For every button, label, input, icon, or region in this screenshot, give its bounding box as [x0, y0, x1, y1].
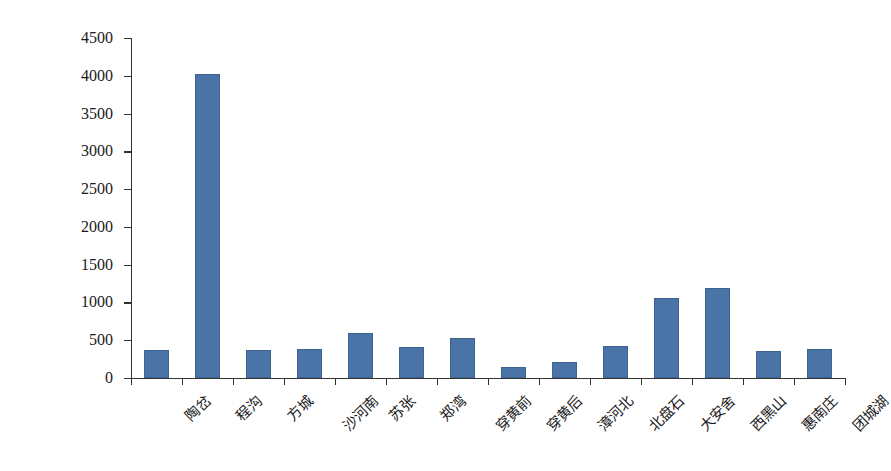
y-axis-tick: 4000 [124, 76, 131, 77]
x-axis-tick [233, 378, 234, 385]
bar [450, 338, 476, 378]
x-axis-category-label: 穿黄后 [540, 390, 585, 435]
bar [756, 351, 782, 378]
x-axis-tick [386, 378, 387, 385]
x-axis-tick [335, 378, 336, 385]
y-axis-tick: 3000 [124, 151, 131, 152]
y-axis-tick: 3500 [124, 114, 131, 115]
x-axis-tick [794, 378, 795, 385]
x-axis-tick [641, 378, 642, 385]
x-axis-category-label: 大安舍 [693, 390, 738, 435]
x-axis-category-label: 苏张 [383, 390, 418, 425]
x-axis-category-label: 程沟 [230, 390, 265, 425]
y-axis-line [131, 38, 132, 378]
x-axis-tick [845, 378, 846, 385]
x-axis-category-label: 惠南庄 [795, 390, 840, 435]
y-axis-title: 藻密度 / (104cell/cm2) [18, 0, 44, 82]
x-axis-category-label: 陶岔 [179, 390, 214, 425]
y-axis-tick: 2500 [124, 189, 131, 190]
bar [501, 367, 527, 378]
x-axis-category-label: 团城湖 [846, 390, 891, 435]
x-axis-tick [743, 378, 744, 385]
x-axis-tick [131, 378, 132, 385]
y-axis-tick-label: 2500 [81, 180, 113, 198]
y-axis-tick-label: 500 [89, 331, 113, 349]
bar [552, 362, 578, 378]
y-axis-tick: 500 [124, 340, 131, 341]
plot-area: 050010001500200025003000350040004500 陶岔程… [131, 38, 845, 378]
bar [297, 349, 323, 378]
y-axis-tick-label: 3000 [81, 142, 113, 160]
x-axis-tick [182, 378, 183, 385]
y-axis-tick-label: 1500 [81, 256, 113, 274]
y-axis-tick: 1500 [124, 265, 131, 266]
x-axis-category-label: 方城 [281, 390, 316, 425]
x-axis-category-label: 穿黄前 [489, 390, 534, 435]
x-axis-tick [284, 378, 285, 385]
y-axis-tick: 2000 [124, 227, 131, 228]
y-axis-tick-label: 4000 [81, 67, 113, 85]
x-axis-tick [590, 378, 591, 385]
x-axis-category-label: 漳河北 [591, 390, 636, 435]
x-axis-tick [488, 378, 489, 385]
y-axis-tick-label: 2000 [81, 218, 113, 236]
y-axis-tick: 0 [124, 378, 131, 379]
x-axis-category-label: 西黑山 [744, 390, 789, 435]
bar [348, 333, 374, 378]
bar [705, 288, 731, 378]
bar [195, 74, 221, 378]
x-axis-tick [692, 378, 693, 385]
bar [144, 350, 170, 378]
x-axis-tick [539, 378, 540, 385]
y-axis-tick: 4500 [124, 38, 131, 39]
x-axis-tick [437, 378, 438, 385]
x-axis-category-label: 郑湾 [434, 390, 469, 425]
y-axis-tick-label: 1000 [81, 293, 113, 311]
y-axis-tick-label: 0 [105, 369, 113, 387]
y-axis-tick-label: 4500 [81, 29, 113, 47]
x-axis-category-label: 北盘石 [642, 390, 687, 435]
bar [246, 350, 272, 378]
x-axis-category-label: 沙河南 [336, 390, 381, 435]
y-axis-tick: 1000 [124, 302, 131, 303]
y-axis-tick-label: 3500 [81, 105, 113, 123]
bar [603, 346, 629, 378]
bar [399, 347, 425, 378]
bar [807, 349, 833, 378]
bar [654, 298, 680, 378]
